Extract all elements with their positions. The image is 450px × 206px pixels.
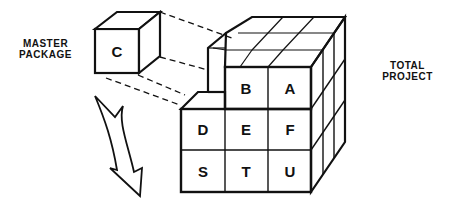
cube-letter-d: D [198, 121, 209, 138]
cube-letter-a: A [285, 80, 296, 97]
cube-letter-b: B [241, 80, 252, 97]
cube-diagram: C B A D E F S T U [0, 0, 450, 206]
master-cube [95, 12, 160, 73]
cube-letter-s: S [198, 163, 208, 180]
cube-letter-f: F [285, 121, 294, 138]
cube-letter-u: U [285, 163, 296, 180]
cube-letter-c: C [112, 43, 123, 60]
cube-letter-t: T [241, 163, 250, 180]
cube-letter-e: E [241, 121, 251, 138]
curved-arrow-icon [95, 96, 142, 196]
